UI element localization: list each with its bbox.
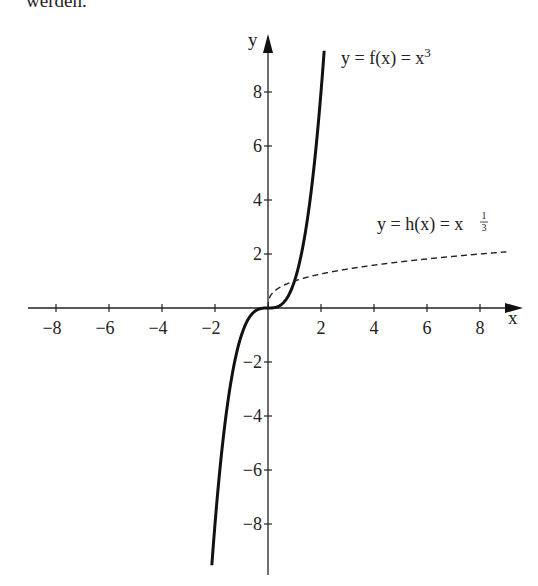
y-tick-label: 8 xyxy=(253,82,262,102)
legend-h-exp-num: 1 xyxy=(482,210,487,221)
x-tick-label: −4 xyxy=(148,318,167,338)
y-tick-label: 6 xyxy=(253,136,262,156)
curve-cube-root xyxy=(268,252,507,308)
legend-h-exp-den: 3 xyxy=(482,222,487,233)
y-axis-label: y xyxy=(248,29,258,50)
x-tick-label: −2 xyxy=(201,318,220,338)
y-tick-label: −6 xyxy=(243,460,262,480)
x-tick-label: −8 xyxy=(42,318,61,338)
x-tick-label: −6 xyxy=(95,318,114,338)
y-tick-label: 2 xyxy=(253,244,262,264)
x-tick-label: 4 xyxy=(370,318,379,338)
x-tick-label: 6 xyxy=(423,318,432,338)
y-axis-arrow-icon xyxy=(263,34,273,53)
y-tick-label: −8 xyxy=(243,514,262,534)
function-plot: −8−6−4−22468−8−6−4−22468 y x y = f(x) = … xyxy=(0,0,538,586)
y-tick-label: 4 xyxy=(253,190,262,210)
x-tick-label: 8 xyxy=(476,318,485,338)
legend-h-label: y = h(x) = x xyxy=(377,214,463,235)
x-axis-label: x xyxy=(508,307,518,328)
legend-f-label: y = f(x) = x3 xyxy=(341,45,431,69)
y-tick-label: −2 xyxy=(243,352,262,372)
axes xyxy=(28,34,523,575)
x-tick-label: 2 xyxy=(317,318,326,338)
y-tick-label: −4 xyxy=(243,406,262,426)
